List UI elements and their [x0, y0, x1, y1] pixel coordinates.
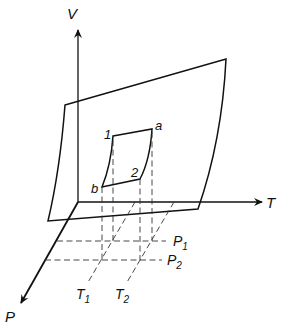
isobar-p1-label: P1 [173, 233, 188, 252]
point-2-label: 2 [130, 165, 139, 180]
v-axis-label: V [67, 5, 79, 22]
t-axis-label: T [266, 194, 277, 211]
state-surface [48, 59, 226, 221]
pvt-diagram: V T P 1 a 2 b P1 P2 T1 T2 [0, 0, 288, 327]
point-1-label: 1 [104, 127, 111, 142]
isotherm-t2-label: T2 [115, 286, 130, 305]
point-a-label: a [155, 118, 162, 133]
diagram-canvas: V T P 1 a 2 b P1 P2 T1 T2 [0, 0, 288, 327]
isotherm-t1-label: T1 [76, 286, 90, 305]
p-axis-label: P [5, 308, 15, 325]
point-b-label: b [91, 181, 98, 196]
isotherm-t1-line [87, 202, 135, 284]
isobar-p2-label: P2 [167, 252, 182, 271]
